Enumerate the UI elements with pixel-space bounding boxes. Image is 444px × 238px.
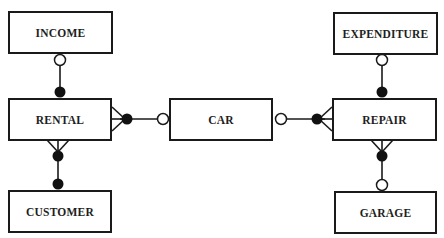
optional-marker-car-right-icon xyxy=(276,114,287,125)
optional-marker-income-bottom-icon xyxy=(55,55,66,66)
entity-repair: REPAIR xyxy=(332,98,437,141)
entity-label-income: INCOME xyxy=(36,27,86,39)
entity-label-rental: RENTAL xyxy=(36,114,84,126)
mandatory-marker-repair-top-icon xyxy=(377,87,388,98)
entity-label-car: CAR xyxy=(208,114,234,126)
entity-car: CAR xyxy=(169,98,273,141)
mandatory-marker-repair-bottom-icon xyxy=(377,151,388,162)
entity-garage: GARAGE xyxy=(334,191,437,234)
entity-label-expenditure: EXPENDITURE xyxy=(343,28,429,40)
mandatory-marker-repair-left-icon xyxy=(312,114,323,125)
entity-customer: CUSTOMER xyxy=(8,190,112,233)
entity-label-garage: GARAGE xyxy=(360,207,412,219)
mandatory-marker-rental-top-icon xyxy=(55,87,66,98)
optional-marker-car-left-icon xyxy=(158,114,169,125)
entity-income: INCOME xyxy=(8,11,113,54)
mandatory-marker-rental-bottom-icon xyxy=(53,151,64,162)
entity-expenditure: EXPENDITURE xyxy=(333,12,438,55)
entity-label-repair: REPAIR xyxy=(362,114,406,126)
mandatory-marker-customer-top-icon xyxy=(53,179,64,190)
entity-label-customer: CUSTOMER xyxy=(26,206,94,218)
optional-marker-garage-top-icon xyxy=(377,180,388,191)
optional-marker-expenditure-bottom-icon xyxy=(377,55,388,66)
mandatory-marker-rental-right-icon xyxy=(122,114,133,125)
entity-rental: RENTAL xyxy=(8,98,112,141)
